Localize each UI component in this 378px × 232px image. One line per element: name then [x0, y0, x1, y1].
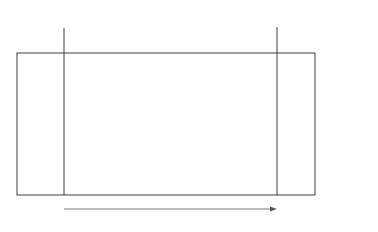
arrowhead-icon	[270, 207, 277, 212]
plate-outline	[17, 53, 315, 195]
direction-arrow	[64, 207, 277, 212]
chromatography-diagram	[0, 0, 378, 232]
